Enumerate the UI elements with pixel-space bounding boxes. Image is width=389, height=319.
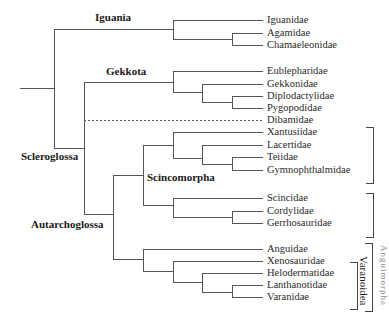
clade-label-scincomorpha: Scincomorpha — [147, 171, 215, 183]
bracket-label-varanoidea: Varanoidea — [358, 256, 370, 305]
leaf-diplodactylidae: Diplodactylidae — [267, 90, 334, 102]
leaf-helodermatidae: Helodermatidae — [267, 267, 334, 279]
leaf-xantusiidae: Xantusiidae — [267, 126, 317, 138]
leaf-iguanidae: Iguanidae — [267, 14, 308, 26]
clade-label-iguania: Iguania — [95, 11, 131, 23]
clade-label-gekkota: Gekkota — [106, 65, 146, 77]
leaf-eublepharidae: Eublepharidae — [267, 65, 328, 77]
leaf-anguidae: Anguidae — [267, 243, 308, 255]
leaf-agamidae: Agamidae — [267, 27, 310, 39]
leaf-lacertidae: Lacertidae — [267, 139, 311, 151]
leaf-dibamidae: Dibamidae — [267, 114, 313, 126]
leaf-varanidae: Varanidae — [267, 291, 309, 303]
leaf-xenosauridae: Xenosauridae — [267, 255, 325, 267]
leaf-gymnophthalmidae: Gymnophthalmidae — [267, 164, 350, 176]
clade-label-scleroglossa: Scleroglossa — [21, 150, 78, 162]
leaf-teiidae: Teiidae — [267, 151, 298, 163]
leaf-chamaeleonidae: Chamaeleonidae — [267, 39, 337, 51]
bracket-label-anguimorpha-cut: Anguimorpha — [379, 245, 389, 306]
leaf-scincidae: Scincidae — [267, 192, 308, 204]
leaf-lanthanotidae: Lanthanotidae — [267, 279, 327, 291]
leaf-gerrhosauridae: Gerrhosauridae — [267, 217, 332, 229]
leaf-cordylidae: Cordylidae — [267, 205, 314, 217]
leaf-pygopodidae: Pygopodidae — [267, 102, 322, 114]
clade-label-autarchoglossa: Autarchoglossa — [31, 218, 104, 230]
leaf-gekkonidae: Gekkonidae — [267, 78, 318, 90]
